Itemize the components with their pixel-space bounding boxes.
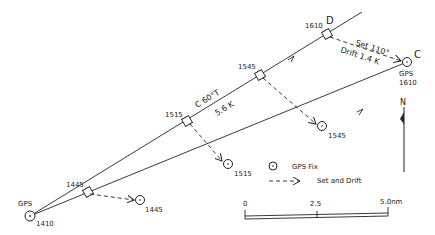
- legend-set-drift-label: Set and Drift: [317, 177, 362, 185]
- scale-tick-2-5: 2.5: [310, 200, 321, 208]
- point-d-label: D: [326, 15, 334, 26]
- scale-tick-0: 0: [243, 200, 247, 208]
- gps-time-1545: 1545: [328, 132, 346, 140]
- dr-time-1545: 1545: [238, 63, 256, 71]
- gps-time-1445: 1445: [145, 206, 163, 214]
- dr-time-1515: 1515: [165, 111, 183, 119]
- gps-fix-1445: [136, 196, 145, 205]
- dr-position-1445: [83, 187, 94, 198]
- set-drift-arrow-1515: [190, 124, 222, 161]
- set-drift-arrow-1445: [90, 194, 134, 200]
- dr-time-1445: 1445: [66, 181, 84, 189]
- gps-fix-1610: [403, 58, 412, 67]
- gps-time-1515: 1515: [234, 170, 252, 178]
- gps-direction-arrow: [357, 109, 363, 115]
- gps-fix-1545: [318, 122, 327, 131]
- north-arrow-head: [400, 112, 404, 124]
- scale-bar: [245, 207, 388, 219]
- legend-gps-fix-label: GPS Fix: [292, 163, 318, 171]
- point-c-label: C: [414, 49, 421, 60]
- legend-gps-fix-icon: [269, 162, 277, 170]
- gps-fix-1515: [224, 160, 233, 169]
- start-time-label: 1410: [36, 220, 54, 228]
- dr-time-1610: 1610: [305, 22, 323, 30]
- course-label: C 60°T: [193, 88, 221, 110]
- start-gps-label: GPS: [18, 200, 33, 208]
- gps-fix-1410: [25, 211, 35, 221]
- speed-label: 5.6 K: [213, 99, 236, 118]
- north-label: N: [400, 98, 406, 107]
- navigation-plot: GPS 1410 1445 1515 1545 1610 D C 60°T 5.…: [0, 0, 435, 235]
- end-gps-label: GPS: [399, 70, 414, 78]
- dr-position-1610: [322, 29, 333, 40]
- end-time-label: 1610: [399, 79, 417, 87]
- scale-tick-5-0: 5.0nm: [380, 198, 403, 206]
